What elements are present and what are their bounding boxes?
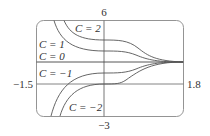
x-min-label: −1.5 [13, 78, 33, 90]
curve-c1 [54, 21, 183, 63]
label-cm1: C = −1 [39, 67, 72, 79]
x-max-label: 1.8 [187, 78, 201, 90]
label-c2: C = 2 [75, 22, 101, 34]
y-max-label: 6 [101, 6, 107, 18]
label-c1: C = 1 [39, 38, 65, 50]
chart: 6 −3 −1.5 1.8 C = 2 C = 1 C = 0 C = −1 C… [0, 0, 210, 136]
label-cm2: C = −2 [69, 101, 103, 113]
y-min-label: −3 [98, 119, 110, 131]
label-c0: C = 0 [39, 50, 65, 62]
